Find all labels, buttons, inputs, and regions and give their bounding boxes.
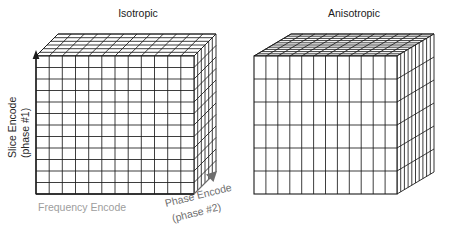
anisotropic-cube xyxy=(254,34,434,194)
slice-encode-label-line2: (phase #1) xyxy=(19,108,31,158)
figure-root: Isotropic Anisotropic xyxy=(0,0,454,227)
voxel-comparison-diagram: Isotropic Anisotropic xyxy=(0,0,454,227)
slice-encode-label-line1: Slice Encode xyxy=(6,97,18,158)
isotropic-title: Isotropic xyxy=(118,7,158,19)
anisotropic-title: Anisotropic xyxy=(328,7,380,19)
isotropic-cube xyxy=(36,34,216,194)
isotropic-top-grid-width xyxy=(36,34,216,56)
frequency-encode-label: Frequency Encode xyxy=(38,201,126,213)
